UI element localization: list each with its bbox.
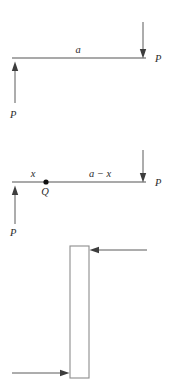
segment-label-a-minus-x: a − x xyxy=(89,168,112,179)
point-q-dot xyxy=(43,179,48,184)
force-up-left-top xyxy=(12,62,18,104)
force-up-left-middle xyxy=(12,186,18,225)
point-label-q: Q xyxy=(41,186,49,197)
arrow-head-up-icon xyxy=(12,62,18,72)
force-left-top-bottom xyxy=(90,247,148,253)
span-label-a: a xyxy=(75,44,80,55)
force-label-p-right-top: P xyxy=(154,53,162,64)
arrow-head-up-icon xyxy=(12,186,18,196)
force-down-right-top xyxy=(140,22,146,59)
force-label-p-left-top: P xyxy=(9,109,17,120)
figure-top: a P P xyxy=(9,22,162,120)
arrow-head-down-icon xyxy=(140,173,146,183)
arrow-head-down-icon xyxy=(140,49,146,59)
vertical-bar-outline xyxy=(70,246,89,378)
figure-bottom xyxy=(12,246,147,378)
beam-diagram-svg: a P P x Q a − x P P xyxy=(0,0,171,385)
diagram-canvas: a P P x Q a − x P P xyxy=(0,0,171,385)
figure-middle: x Q a − x P P xyxy=(9,150,162,238)
segment-label-x: x xyxy=(30,168,36,179)
force-right-bottom-bottom xyxy=(12,370,70,376)
force-down-right-middle xyxy=(140,150,146,183)
force-label-p-left-middle: P xyxy=(9,227,17,238)
arrow-head-right-icon xyxy=(60,370,70,376)
force-label-p-right-middle: P xyxy=(154,177,162,188)
arrow-head-left-icon xyxy=(90,247,100,253)
